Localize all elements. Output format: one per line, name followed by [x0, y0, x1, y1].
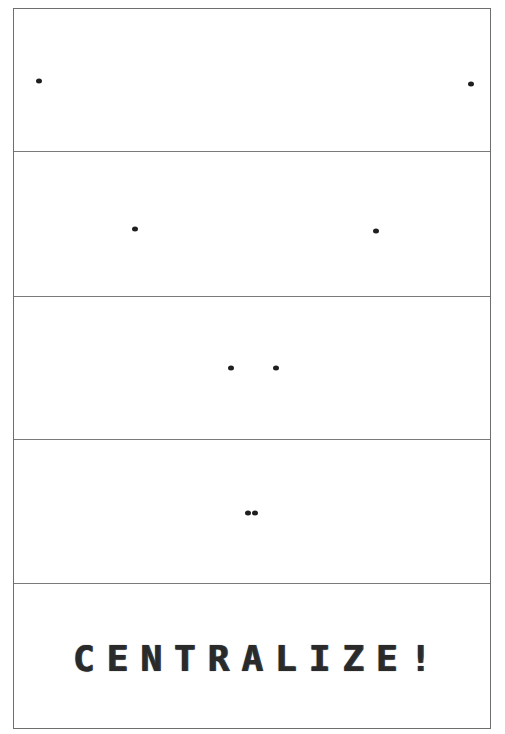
dot-left: [245, 511, 251, 516]
dot-right: [468, 82, 474, 87]
dot-right: [273, 366, 279, 371]
comic-frame: CENTRALIZE!: [13, 8, 491, 729]
panel-5: CENTRALIZE!: [14, 584, 490, 728]
panel-1: [14, 9, 490, 152]
dot-right: [252, 511, 258, 516]
dot-right: [373, 229, 379, 234]
dot-left: [132, 227, 138, 232]
panel-4: [14, 440, 490, 584]
panel-3: [14, 297, 490, 440]
dot-left: [36, 79, 42, 84]
dot-left: [228, 366, 234, 371]
panel-2: [14, 152, 490, 297]
caption-text: CENTRALIZE!: [14, 638, 490, 679]
